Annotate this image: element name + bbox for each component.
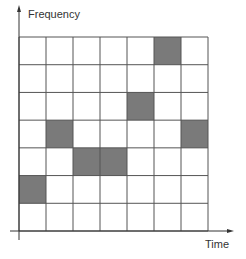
shaded-cell [181,120,208,148]
shaded-cell [127,92,154,120]
shaded-cell [19,176,46,204]
time-frequency-grid [0,0,246,259]
shaded-cell [154,37,181,65]
shaded-cell [46,120,73,148]
y-axis-arrow-icon [17,5,21,12]
shaded-cell [100,148,127,176]
shaded-cell [73,148,100,176]
x-axis-arrow-icon [227,229,234,233]
x-axis-label: Time [205,238,229,250]
y-axis-label: Frequency [28,8,80,20]
